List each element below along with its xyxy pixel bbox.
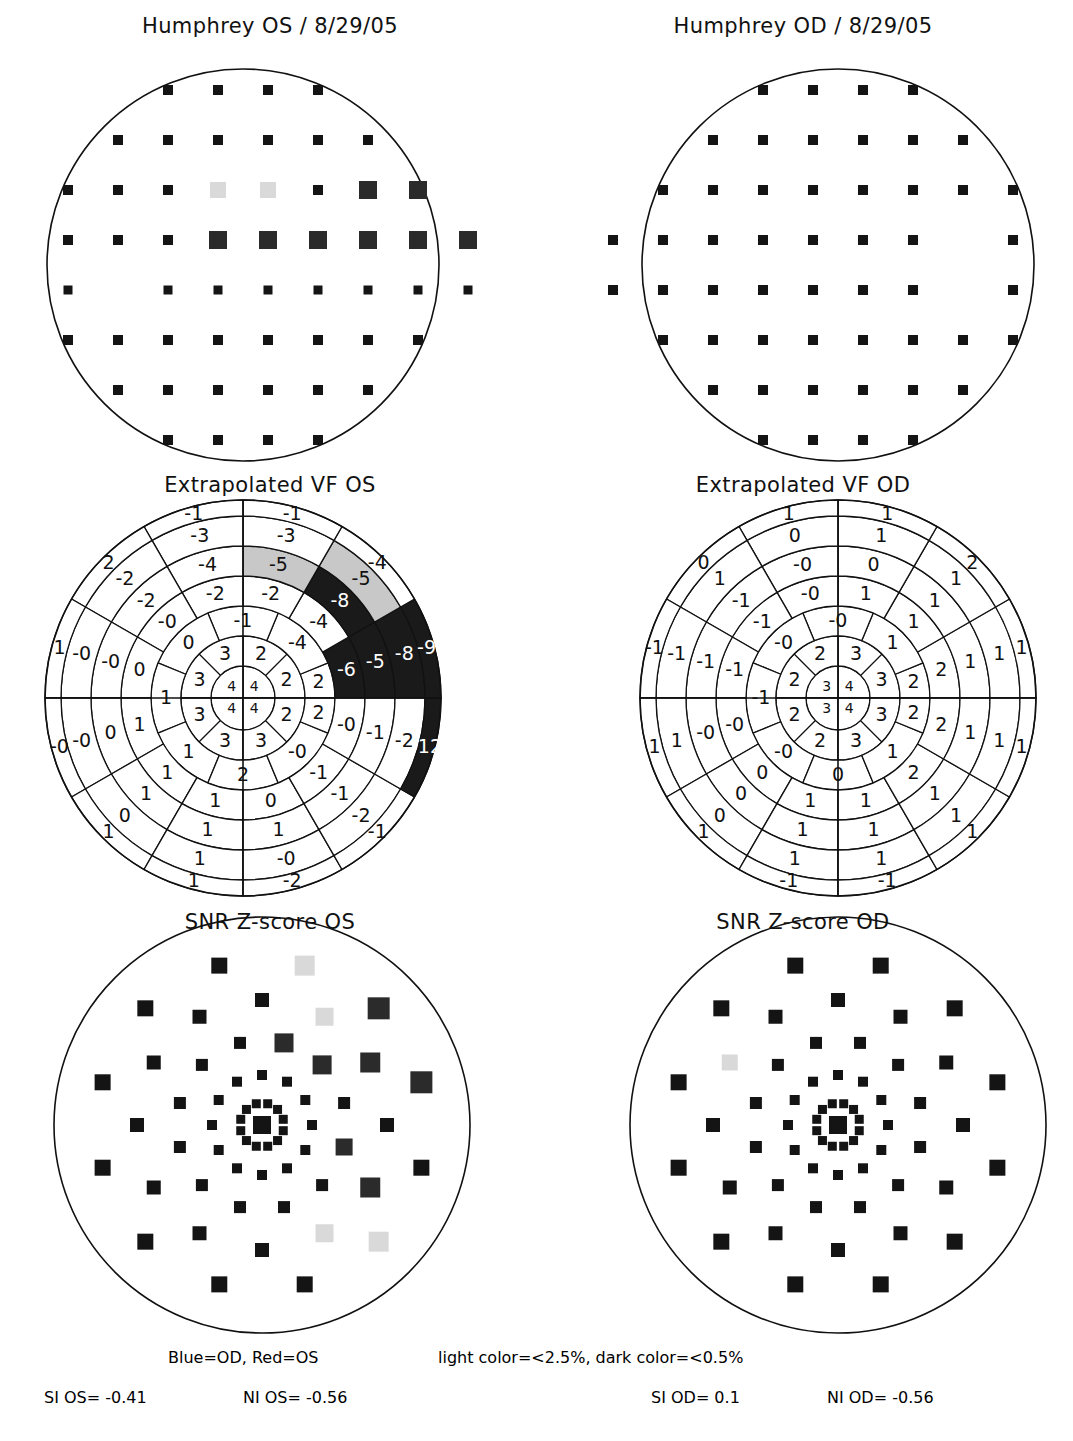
snr-marker [137,1000,153,1016]
deviation-marker [409,231,427,249]
deviation-marker [64,286,73,295]
snr-marker [750,1097,762,1109]
deviation-marker [658,285,668,295]
snr-marker [876,1145,886,1155]
snr-marker [812,1115,821,1124]
vf-sector-value: 1 [201,818,213,840]
vf-sector-value: 0 [789,524,801,546]
vf-sector-value: 1 [671,729,683,751]
vf-sector-value: -0 [101,650,120,672]
snr-marker [380,1118,394,1132]
vf-sector-value: 1 [964,721,976,743]
deviation-marker [263,85,273,95]
snr-marker [818,1105,827,1114]
vf-sector-value: -1 [667,642,686,664]
vf-sector-value: 0 [183,631,195,653]
vf-sector-value: -1 [753,610,772,632]
deviation-marker [758,285,768,295]
vf-sector-value: 2 [814,729,826,751]
deviation-marker [409,181,427,199]
vf-sector-value: -4 [368,551,387,573]
snr-marker [883,1120,893,1130]
deviation-marker [858,185,868,195]
deviation-marker [164,286,173,295]
deviation-marker [213,85,223,95]
humphrey-od-plot[interactable] [533,0,1073,480]
deviation-marker [213,335,223,345]
vf-sector-value: -1 [366,721,385,743]
deviation-marker [908,285,918,295]
deviation-marker [313,185,323,195]
snr-marker [855,1126,864,1135]
deviation-marker [113,335,123,345]
humphrey-os-plot[interactable] [0,0,540,480]
snr-marker [360,1053,380,1073]
vf-sector-value: 2 [966,551,978,573]
snr-zscore-od-plot[interactable] [533,900,1073,1320]
snr-marker [750,1141,762,1153]
vf-sector-value: 3 [875,703,887,725]
snr-marker [831,1243,845,1257]
vf-sector-value: 3 [219,729,231,751]
vf-sector-value: 1 [53,636,65,658]
deviation-marker [414,286,423,295]
vf-sector-value: 2 [312,701,324,723]
deviation-marker [313,135,323,145]
vf-sector-value: 1 [134,713,146,735]
vf-sector-value: -2 [283,869,302,891]
snr-marker [833,1070,843,1080]
deviation-marker [363,135,373,145]
vf-sector-value: 1 [714,567,726,589]
deviation-marker [413,335,423,345]
vf-sector-value: -3 [190,524,209,546]
deviation-marker [808,285,818,295]
vf-sector-value: 1 [183,740,195,762]
extrapolated-vf-os-plot[interactable]: 4444223333322-4-10112-02-6-4-2-2-001110-… [0,470,540,910]
snr-marker [236,1115,245,1124]
snr-marker [831,993,845,1007]
snr-marker [790,1095,800,1105]
si-os-value: SI OS= -0.41 [44,1388,147,1407]
vf-sector-value: -1 [725,658,744,680]
legend-significance: light color=<2.5%, dark color=<0.5% [438,1348,743,1367]
vf-sector-value: -1 [696,650,715,672]
snr-marker [300,1095,310,1105]
snr-marker [873,1276,889,1292]
snr-marker [236,1126,245,1135]
vf-sector-value: 4 [845,700,854,716]
vf-sector-value: 2 [237,763,249,785]
deviation-marker [908,235,918,245]
snr-marker [130,1118,144,1132]
vf-sector-value: 1 [886,631,898,653]
snr-marker [833,1170,843,1180]
footer-index-row: SI OS= -0.41 NI OS= -0.56 SI OD= 0.1 NI … [0,1388,1073,1418]
snr-marker [234,1037,246,1049]
snr-center-marker [253,1116,271,1134]
deviation-marker [758,335,768,345]
vf-sector-value: 1 [929,782,941,804]
deviation-marker [163,235,173,245]
snr-marker [360,1178,380,1198]
vf-sector-value: -1 [330,782,349,804]
vf-sector-value: 2 [789,668,801,690]
deviation-marker [363,335,373,345]
vf-sector-value: -4 [288,631,307,653]
snr-marker [232,1163,242,1173]
snr-marker [939,1056,953,1070]
vf-sector-value: 1 [950,804,962,826]
vf-sector-value: 2 [935,713,947,735]
deviation-marker [263,335,273,345]
vf-sector-value: 1 [103,820,115,842]
snr-marker [338,1097,350,1109]
deviation-marker [758,85,768,95]
snr-marker [722,1055,738,1071]
extrapolated-vf-od-plot[interactable]: 43343322223321-0-0-1-0012211-0-1-1-00112… [533,470,1073,910]
snr-marker [257,1170,267,1180]
vf-sector-value: 2 [907,701,919,723]
vf-sector-value: -2 [137,589,156,611]
snr-zscore-os-plot[interactable] [0,900,540,1320]
deviation-marker [210,182,226,198]
snr-marker [839,1142,848,1151]
vf-sector-value: -8 [395,642,414,664]
snr-marker [316,1008,334,1026]
